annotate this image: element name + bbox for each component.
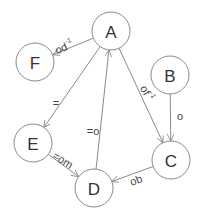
node-c: C bbox=[152, 141, 190, 179]
edge-label-b-c: o bbox=[177, 110, 183, 122]
node-d: D bbox=[75, 169, 113, 207]
node-e: E bbox=[14, 124, 52, 162]
node-label: F bbox=[30, 54, 40, 73]
edge-label-a-f: od-1 bbox=[52, 36, 75, 56]
edge-label-a-e: = bbox=[53, 97, 59, 109]
edge-b-to-c bbox=[170, 94, 171, 141]
edge-label-e-d: =om bbox=[51, 149, 76, 171]
graph-diagram: od-1=of-1=oo=omob AFBECD bbox=[0, 0, 205, 218]
node-b: B bbox=[151, 56, 189, 94]
node-label: B bbox=[164, 67, 175, 86]
edge-label-d-a: =o bbox=[87, 125, 100, 137]
node-label: D bbox=[88, 180, 100, 199]
node-label: E bbox=[27, 135, 38, 154]
node-label: A bbox=[105, 23, 117, 42]
node-a: A bbox=[92, 12, 130, 50]
node-f: F bbox=[16, 43, 54, 81]
node-label: C bbox=[165, 152, 177, 171]
edge-d-to-a bbox=[96, 50, 109, 169]
